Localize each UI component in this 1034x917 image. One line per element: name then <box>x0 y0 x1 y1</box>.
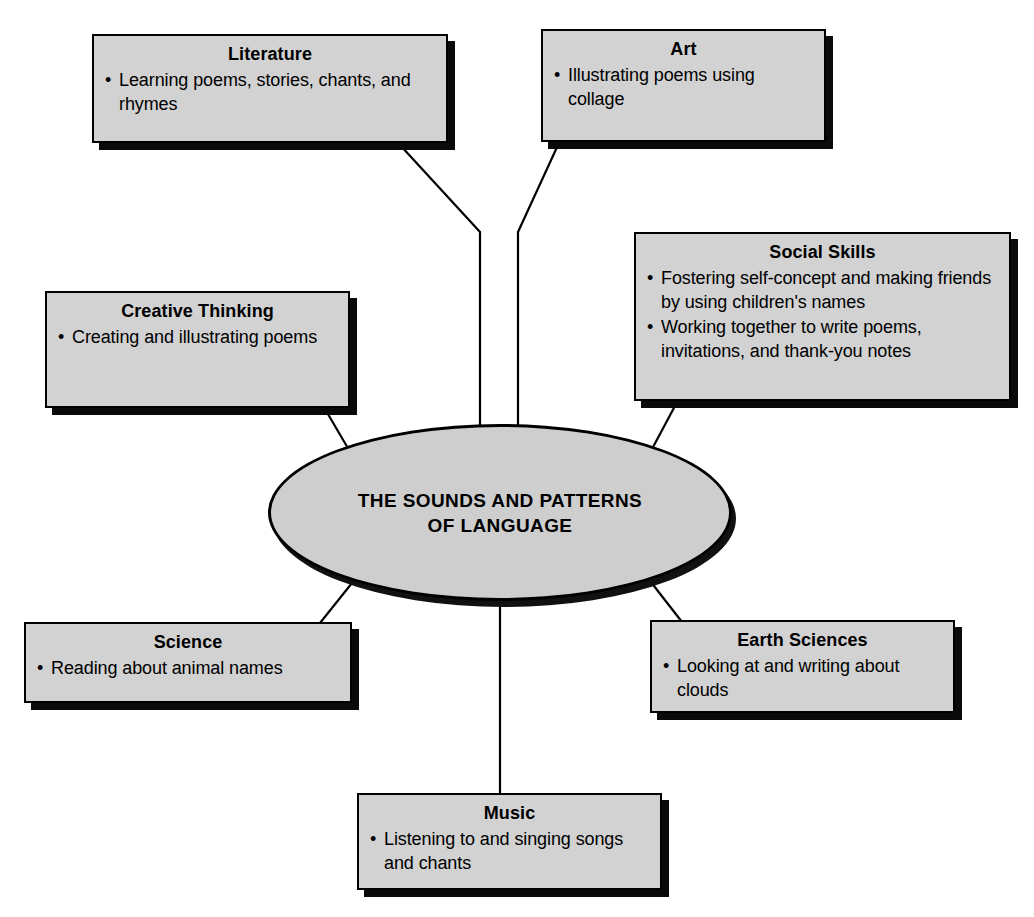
node-bullets-art: Illustrating poems using collage <box>553 63 814 111</box>
connector-science <box>320 578 356 623</box>
node-title-earth-sciences: Earth Sciences <box>662 629 943 652</box>
bullet-item: Listening to and singing songs and chant… <box>369 827 650 875</box>
node-title-literature: Literature <box>104 43 436 66</box>
node-title-creative-thinking: Creative Thinking <box>57 300 338 323</box>
bullet-item: Looking at and writing about clouds <box>662 654 943 702</box>
connector-social-skills <box>652 404 676 449</box>
node-social-skills[interactable]: Social Skills Fostering self-concept and… <box>634 232 1011 401</box>
bullet-item: Learning poems, stories, chants, and rhy… <box>104 68 436 116</box>
connector-creative-thinking <box>325 409 349 450</box>
node-earth-sciences[interactable]: Earth Sciences Looking at and writing ab… <box>650 620 955 713</box>
center-label-line-1: THE SOUNDS AND PATTERNS <box>358 490 642 511</box>
bullet-item: Creating and illustrating poems <box>57 325 338 349</box>
node-bullets-literature: Learning poems, stories, chants, and rhy… <box>104 68 436 116</box>
node-bullets-music: Listening to and singing songs and chant… <box>369 827 650 875</box>
node-title-music: Music <box>369 802 650 825</box>
center-label-line-2: OF LANGUAGE <box>428 515 573 536</box>
diagram-canvas: Literature Learning poems, stories, chan… <box>0 0 1034 917</box>
bullet-item: Fostering self-concept and making friend… <box>646 266 999 314</box>
node-science[interactable]: Science Reading about animal names <box>24 622 352 703</box>
node-title-science: Science <box>36 631 340 654</box>
connector-earth-sciences <box>647 577 682 622</box>
node-bullets-social-skills: Fostering self-concept and making friend… <box>646 266 999 363</box>
node-literature[interactable]: Literature Learning poems, stories, chan… <box>92 34 448 143</box>
connector-literature <box>400 145 480 426</box>
bullet-item: Working together to write poems, invitat… <box>646 315 999 363</box>
node-title-art: Art <box>553 38 814 61</box>
node-creative-thinking[interactable]: Creative Thinking Creating and illustrat… <box>45 291 350 408</box>
node-bullets-science: Reading about animal names <box>36 656 340 680</box>
node-title-social-skills: Social Skills <box>646 241 999 264</box>
node-art[interactable]: Art Illustrating poems using collage <box>541 29 826 142</box>
connector-art <box>518 145 558 426</box>
bullet-item: Illustrating poems using collage <box>553 63 814 111</box>
node-bullets-creative-thinking: Creating and illustrating poems <box>57 325 338 349</box>
node-bullets-earth-sciences: Looking at and writing about clouds <box>662 654 943 702</box>
node-music[interactable]: Music Listening to and singing songs and… <box>357 793 662 890</box>
center-node-label: THE SOUNDS AND PATTERNS OF LANGUAGE <box>317 488 683 538</box>
bullet-item: Reading about animal names <box>36 656 340 680</box>
center-node-sounds-and-patterns-of-language[interactable]: THE SOUNDS AND PATTERNS OF LANGUAGE <box>268 424 732 601</box>
